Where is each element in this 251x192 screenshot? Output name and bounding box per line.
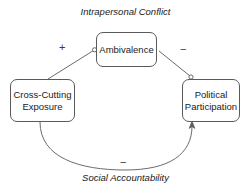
pathway-label-social-accountability: Social Accountability <box>0 172 251 183</box>
pathway-label-intrapersonal-conflict: Intrapersonal Conflict <box>0 6 251 17</box>
node-political-participation-label: Political Participation <box>183 89 239 112</box>
edge-sign-minus-ambivalence-participation: − <box>180 44 186 55</box>
node-political-participation[interactable]: Political Participation <box>182 79 240 122</box>
edge-sign-plus-exposure-ambivalence: + <box>59 42 65 53</box>
node-cross-cutting-exposure[interactable]: Cross-Cutting Exposure <box>10 79 75 122</box>
node-ambivalence-label: Ambivalence <box>97 44 155 56</box>
node-cross-cutting-exposure-label: Cross-Cutting Exposure <box>11 89 73 112</box>
node-ambivalence[interactable]: Ambivalence <box>96 32 157 67</box>
edge-sign-minus-exposure-participation: − <box>120 157 126 168</box>
edge-exposure-to-ambivalence <box>48 51 94 80</box>
edge-exposure-to-participation <box>40 122 192 170</box>
conceptual-model-diagram: Intrapersonal Conflict Ambivalence Cross… <box>0 0 251 192</box>
